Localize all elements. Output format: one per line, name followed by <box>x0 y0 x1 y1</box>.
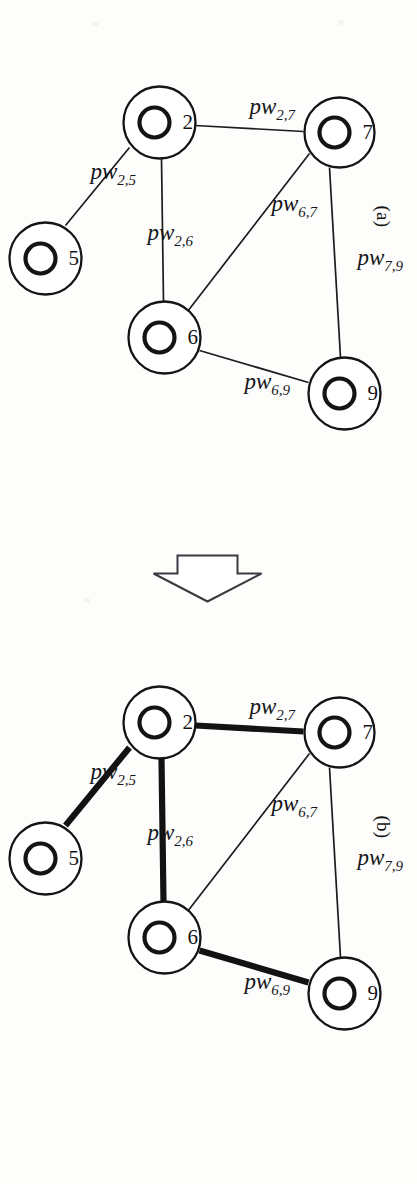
svg-text:pw2,6: pw2,6 <box>145 219 193 248</box>
node-2-label: 2 <box>182 709 193 733</box>
edge-label-base: pw <box>145 219 175 244</box>
panel-b: (b) 7 2 <box>0 600 417 1145</box>
edge-label-pw-7-9: pw7,9 <box>355 244 403 273</box>
edge-label-pw-2-6: pw2,6 <box>145 819 193 848</box>
node-9-label: 9 <box>367 380 378 404</box>
edge-label-pw-6-9: pw6,9 <box>242 368 290 397</box>
node-6-label: 6 <box>187 324 198 348</box>
edge-label-base: pw <box>269 790 299 815</box>
node-2[interactable]: 2 <box>123 686 195 758</box>
edge-label-sub: 7,9 <box>384 857 403 873</box>
block-arrow-icon <box>153 555 261 601</box>
edge-label-base: pw <box>242 968 272 993</box>
panel-a-graph: 7 2 5 6 <box>0 0 417 545</box>
edge-label-base: pw <box>145 819 175 844</box>
edge-label-pw-7-9: pw7,9 <box>355 844 403 873</box>
node-7-label: 7 <box>362 719 373 743</box>
node-6[interactable]: 6 <box>128 301 200 373</box>
edge-pw-2-7[interactable] <box>195 725 303 731</box>
node-5-label: 5 <box>68 845 79 869</box>
node-6[interactable]: 6 <box>128 901 200 973</box>
edge-label-base: pw <box>247 693 277 718</box>
edge-label-pw-2-5: pw2,5 <box>88 758 136 787</box>
edge-label-sub: 2,6 <box>174 232 193 248</box>
svg-text:pw6,7: pw6,7 <box>269 190 318 219</box>
edge-label-pw-6-7: pw6,7 <box>269 190 318 219</box>
edge-label-pw-2-7: pw2,7 <box>247 93 296 122</box>
svg-text:pw6,7: pw6,7 <box>269 790 318 819</box>
node-6-label: 6 <box>187 924 198 948</box>
node-7[interactable]: 7 <box>304 697 374 767</box>
node-7[interactable]: 7 <box>304 97 374 167</box>
edge-label-sub: 2,5 <box>117 771 136 787</box>
edge-label-pw-2-6: pw2,6 <box>145 219 193 248</box>
edge-label-base: pw <box>88 758 118 783</box>
svg-text:pw2,5: pw2,5 <box>88 158 136 187</box>
edge-label-pw-2-5: pw2,5 <box>88 158 136 187</box>
edge-label-sub: 2,6 <box>174 832 193 848</box>
node-9[interactable]: 9 <box>308 357 380 429</box>
svg-text:pw2,6: pw2,6 <box>145 819 193 848</box>
figure-page: (a) 7 2 <box>0 0 417 1184</box>
edge-pw-6-7[interactable] <box>187 153 309 311</box>
edge-label-base: pw <box>355 244 385 269</box>
node-9[interactable]: 9 <box>308 957 380 1029</box>
edge-label-base: pw <box>247 93 277 118</box>
svg-text:pw2,7: pw2,7 <box>247 693 296 722</box>
node-5-label: 5 <box>68 245 79 269</box>
edge-pw-2-7[interactable] <box>195 125 303 131</box>
edge-label-base: pw <box>269 190 299 215</box>
edge-label-sub: 6,7 <box>298 203 318 219</box>
node-7-label: 7 <box>362 119 373 143</box>
svg-text:pw2,7: pw2,7 <box>247 93 296 122</box>
node-9-label: 9 <box>367 980 378 1004</box>
node-5[interactable]: 5 <box>9 222 81 294</box>
panel-b-graph: 7 2 5 6 <box>0 600 417 1145</box>
edge-label-sub: 6,9 <box>271 981 290 997</box>
edge-label-sub: 2,7 <box>276 706 296 722</box>
node-5[interactable]: 5 <box>9 822 81 894</box>
node-2-label: 2 <box>182 109 193 133</box>
edge-label-base: pw <box>242 368 272 393</box>
edge-pw-7-9[interactable] <box>329 767 340 957</box>
edge-label-sub: 2,5 <box>117 171 136 187</box>
edge-label-pw-2-7: pw2,7 <box>247 693 296 722</box>
transition-arrow <box>147 553 267 601</box>
edge-label-pw-6-7: pw6,7 <box>269 790 318 819</box>
edge-pw-6-7[interactable] <box>187 753 309 911</box>
svg-text:pw7,9: pw7,9 <box>355 844 403 873</box>
edge-label-sub: 6,7 <box>298 803 318 819</box>
edge-label-sub: 6,9 <box>271 381 290 397</box>
svg-text:pw7,9: pw7,9 <box>355 244 403 273</box>
svg-text:pw6,9: pw6,9 <box>242 368 290 397</box>
rotated-figure-canvas: (a) 7 2 <box>0 0 417 1184</box>
panel-a: (a) 7 2 <box>0 0 417 545</box>
node-2[interactable]: 2 <box>123 86 195 158</box>
edge-label-base: pw <box>88 158 118 183</box>
edge-label-base: pw <box>355 844 385 869</box>
edge-label-sub: 2,7 <box>276 106 296 122</box>
edge-label-sub: 7,9 <box>384 257 403 273</box>
edge-pw-7-9[interactable] <box>329 167 340 357</box>
svg-text:pw2,5: pw2,5 <box>88 758 136 787</box>
